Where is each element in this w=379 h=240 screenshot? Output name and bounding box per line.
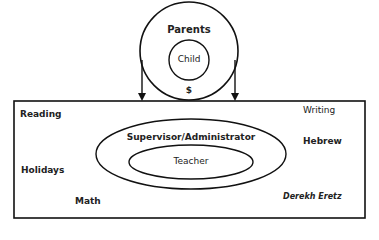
teacher-label: Teacher — [174, 156, 209, 166]
subject-hebrew: Hebrew — [303, 136, 342, 146]
subject-derekh-eretz: Derekh Eretz — [283, 192, 342, 201]
parents-label: Parents — [167, 24, 210, 35]
subject-math: Math — [75, 196, 101, 206]
left-down-arrow — [138, 60, 146, 101]
subject-holidays: Holidays — [21, 165, 64, 175]
subject-writing: Writing — [303, 105, 335, 115]
supervisor-label: Supervisor/Administrator — [127, 132, 256, 142]
child-label: Child — [178, 54, 201, 64]
subject-reading: Reading — [20, 109, 61, 119]
money-symbol: $ — [186, 85, 192, 95]
right-down-arrow — [231, 60, 239, 101]
